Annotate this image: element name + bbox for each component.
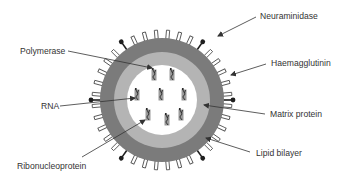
polymerase-dot xyxy=(179,108,181,110)
polymerase-dot xyxy=(159,88,161,90)
ribonucleoprotein-segment xyxy=(179,108,184,121)
haemagglutinin-spike xyxy=(154,30,158,39)
label-polymerase: Polymerase xyxy=(20,46,65,56)
ribonucleoprotein-segment xyxy=(165,113,170,126)
label-haemagglutinin: Haemagglutinin xyxy=(271,58,331,68)
haemagglutinin-spike xyxy=(166,161,170,170)
label-matrix-protein: Matrix protein xyxy=(270,109,322,119)
label-neuraminidase: Neuraminidase xyxy=(260,11,318,21)
label-ribonucleoprotein: Ribonucleoprotein xyxy=(17,161,86,171)
ribonucleoprotein-segment xyxy=(170,68,175,81)
polymerase-dot xyxy=(135,88,137,90)
haemagglutinin-spike xyxy=(166,30,170,39)
haemagglutinin-spike xyxy=(92,104,101,108)
haemagglutinin-spike xyxy=(154,161,158,170)
polymerase-dot xyxy=(170,68,172,70)
arrow-haemagglutinin xyxy=(231,64,266,75)
label-lipid-bilayer: Lipid bilayer xyxy=(256,148,302,158)
neuraminidase-spike xyxy=(223,98,235,103)
polymerase-dot xyxy=(152,68,154,70)
label-rna: RNA xyxy=(41,101,59,111)
polymerase-dot xyxy=(146,108,148,110)
polymerase-dot xyxy=(165,113,167,115)
arrow-lipid-bilayer xyxy=(206,138,250,152)
haemagglutinin-spike xyxy=(223,92,232,96)
haemagglutinin-spike xyxy=(223,104,232,108)
ribonucleoprotein-segment xyxy=(182,88,187,101)
ribonucleoprotein-segment xyxy=(159,88,164,101)
arrow-neuraminidase xyxy=(218,17,256,36)
polymerase-dot xyxy=(182,88,184,90)
ribonucleoprotein-segment xyxy=(152,68,157,81)
haemagglutinin-spike xyxy=(92,92,101,96)
ribonucleoprotein-segment xyxy=(135,88,140,101)
ribonucleoprotein-segment xyxy=(146,108,151,121)
